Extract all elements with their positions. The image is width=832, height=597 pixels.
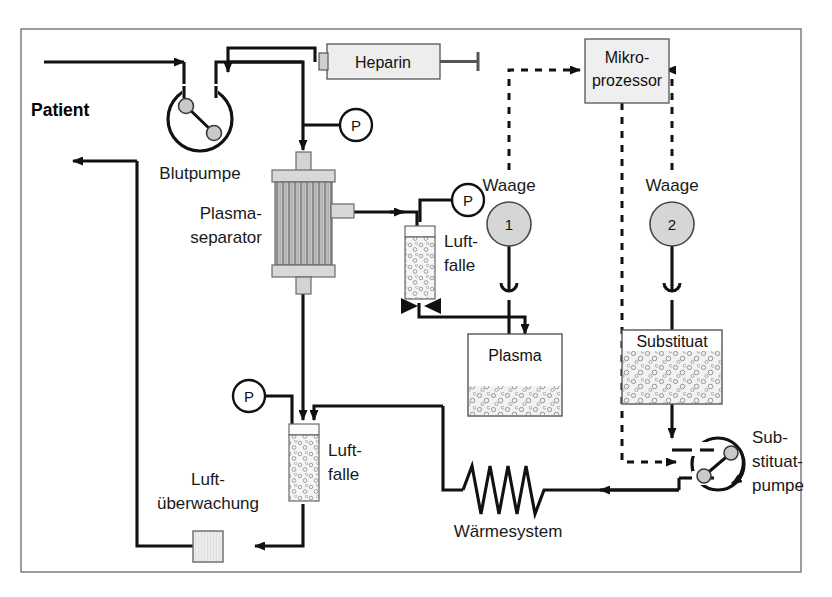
substituate-pump-label-line1: Sub- bbox=[752, 428, 788, 447]
air-detector-label-line1: Luft- bbox=[191, 470, 225, 489]
substituate-container-fluid bbox=[623, 351, 721, 403]
pressure-sensor-arterial[interactable]: P bbox=[340, 109, 372, 141]
microprocessor[interactable]: Mikro- prozessor bbox=[585, 39, 669, 103]
blood-pump-label: Blutpumpe bbox=[159, 164, 240, 183]
plasma-container-label: Plasma bbox=[488, 347, 541, 364]
pressure-sensor-plasma[interactable]: P bbox=[452, 184, 484, 216]
substituate-container[interactable]: Substituat bbox=[622, 330, 722, 404]
substituate-container-label: Substituat bbox=[636, 333, 708, 350]
air-detector-box bbox=[193, 531, 223, 562]
air-trap-plasma-cap bbox=[405, 226, 435, 237]
air-trap-venous-body bbox=[289, 435, 319, 501]
separator-bottom-stub bbox=[296, 277, 311, 294]
separator-top-stub bbox=[296, 152, 311, 171]
blood-pump-roller-2 bbox=[207, 126, 222, 141]
substituate-pump-label-line3: pumpe bbox=[752, 476, 804, 495]
scale-1-value: 1 bbox=[505, 216, 513, 233]
scale-1[interactable]: Waage 1 bbox=[482, 176, 535, 246]
air-detector[interactable] bbox=[193, 531, 223, 562]
pressure-sensor-venous[interactable]: P bbox=[233, 380, 265, 412]
air-trap-venous-label-line1: Luft- bbox=[328, 441, 362, 460]
plasma-container-fluid bbox=[469, 386, 561, 415]
microprocessor-label-line2: prozessor bbox=[592, 72, 663, 89]
pressure-sensor-plasma-label: P bbox=[463, 192, 473, 209]
scale-2-caption: Waage bbox=[645, 176, 698, 195]
separator-bottom-cap bbox=[272, 265, 335, 277]
plasmapheresis-diagram: Heparin bbox=[0, 0, 832, 597]
substituate-pump[interactable] bbox=[692, 438, 744, 490]
plasma-separator-label-line1: Plasma- bbox=[200, 204, 262, 223]
heparin-plunger-head bbox=[319, 53, 328, 70]
separator-top-cap bbox=[272, 170, 335, 182]
air-trap-venous-label-line2: falle bbox=[328, 465, 359, 484]
circuit-svg: Heparin bbox=[0, 0, 832, 597]
separator-body bbox=[275, 182, 332, 265]
pressure-sensor-venous-label: P bbox=[244, 388, 254, 405]
heating-system-label: Wärmesystem bbox=[454, 522, 563, 541]
scale-1-caption: Waage bbox=[482, 176, 535, 195]
heparin-label: Heparin bbox=[355, 54, 411, 71]
substituate-pump-label-line2: stituat- bbox=[752, 452, 803, 471]
plasma-separator-label-line2: separator bbox=[190, 228, 262, 247]
air-trap-plasma-label-line2: falle bbox=[444, 256, 475, 275]
air-trap-plasma-body bbox=[405, 237, 435, 299]
scale-2[interactable]: Waage 2 bbox=[645, 176, 698, 246]
patient-label: Patient bbox=[31, 100, 90, 120]
plasma-container[interactable]: Plasma bbox=[468, 334, 562, 416]
pressure-sensor-arterial-label: P bbox=[351, 117, 361, 134]
scale-2-value: 2 bbox=[668, 216, 676, 233]
air-trap-plasma-label-line1: Luft- bbox=[444, 232, 478, 251]
air-trap-venous-cap bbox=[289, 424, 319, 435]
substituate-pump-roller-1 bbox=[697, 469, 711, 483]
microprocessor-label-line1: Mikro- bbox=[605, 49, 649, 66]
separator-side-port bbox=[331, 204, 354, 218]
blood-pump-roller-1 bbox=[179, 99, 194, 114]
substituate-pump-roller-2 bbox=[724, 446, 738, 460]
blood-pump[interactable] bbox=[168, 84, 232, 151]
air-detector-label-line2: überwachung bbox=[157, 494, 259, 513]
